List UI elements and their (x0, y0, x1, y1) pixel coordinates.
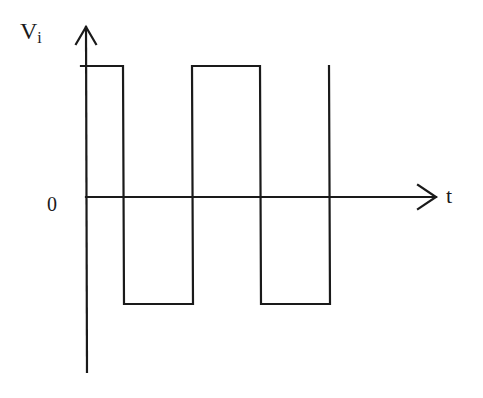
y-axis (86, 27, 87, 372)
origin-label: 0 (47, 193, 57, 216)
y-axis-label: Vi (20, 18, 42, 47)
x-axis-label: t (446, 183, 452, 209)
square-wave-trace (81, 66, 330, 304)
y-axis-subscript: i (37, 29, 41, 46)
waveform-plot (0, 0, 483, 398)
